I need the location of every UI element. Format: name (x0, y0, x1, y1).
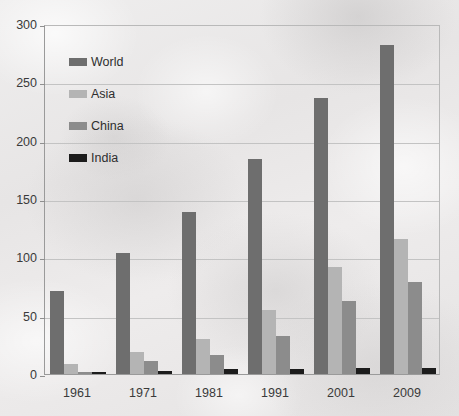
plot-area (44, 25, 440, 375)
x-axis-tick-label: 2009 (374, 386, 440, 400)
bar (394, 239, 408, 374)
bar (248, 159, 262, 374)
y-axis-tick-labels: 050100150200250300 (0, 0, 37, 416)
legend-swatch-icon (69, 90, 87, 98)
legend-label: China (91, 120, 124, 133)
bar (182, 212, 196, 374)
bar (64, 364, 78, 375)
legend-swatch-icon (69, 58, 87, 66)
x-axis-tick-label: 1961 (44, 386, 110, 400)
bar (328, 267, 342, 374)
bar (78, 372, 92, 374)
x-axis-tick-label: 2001 (308, 386, 374, 400)
bar (276, 336, 290, 375)
bar (262, 310, 276, 374)
y-axis-tick-mark (40, 259, 45, 260)
y-axis-tick-mark (40, 26, 45, 27)
legend-label: World (91, 56, 123, 69)
y-axis-tick-mark (40, 143, 45, 144)
bar (196, 339, 210, 374)
bar (422, 368, 436, 374)
bar (144, 361, 158, 374)
y-axis-tick-mark (40, 376, 45, 377)
bar (380, 45, 394, 374)
bar (92, 372, 106, 374)
y-axis-tick-label: 150 (16, 194, 37, 207)
legend-swatch-icon (69, 154, 87, 162)
bar (116, 253, 130, 374)
legend-item-world[interactable]: World (69, 55, 123, 69)
y-axis-tick-label: 200 (16, 136, 37, 149)
bar (408, 282, 422, 374)
legend-label: India (91, 152, 118, 165)
legend-item-india[interactable]: India (69, 151, 118, 165)
bar (50, 291, 64, 374)
y-axis-tick-mark (40, 84, 45, 85)
bar (158, 371, 172, 375)
bar (290, 369, 304, 374)
legend-item-asia[interactable]: Asia (69, 87, 115, 101)
y-axis-tick-label: 300 (16, 19, 37, 32)
x-axis-tick-label: 1991 (242, 386, 308, 400)
bar (342, 301, 356, 375)
legend-swatch-icon (69, 122, 87, 130)
y-axis-tick-label: 0 (30, 369, 37, 382)
bar-chart: 050100150200250300 196119711981199120012… (0, 0, 459, 416)
y-axis-tick-mark (40, 201, 45, 202)
x-axis-tick-label: 1971 (110, 386, 176, 400)
bar (210, 355, 224, 374)
y-axis-tick-label: 250 (16, 77, 37, 90)
legend-item-china[interactable]: China (69, 119, 124, 133)
y-axis-tick-label: 50 (23, 311, 37, 324)
y-axis-tick-label: 100 (16, 252, 37, 265)
y-axis-tick-mark (40, 318, 45, 319)
legend-label: Asia (91, 88, 115, 101)
bar (314, 98, 328, 375)
bar (224, 369, 238, 374)
x-axis-tick-label: 1981 (176, 386, 242, 400)
bar (356, 368, 370, 374)
bar (130, 352, 144, 374)
